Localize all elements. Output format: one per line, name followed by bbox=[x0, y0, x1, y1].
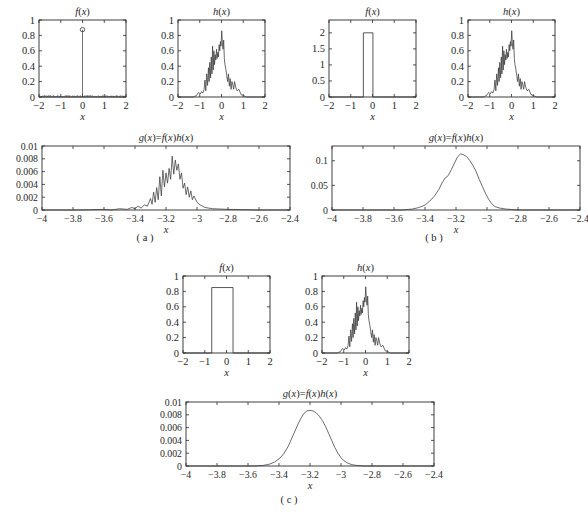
data-curve bbox=[178, 31, 265, 97]
chart-b-g: g(x)=f(x)h(x)−4−3.8−3.6−3.4−3.2−3−2.8−2.… bbox=[296, 130, 588, 236]
x-axis-title: x bbox=[508, 111, 514, 122]
y-tick-label: 0.2 bbox=[22, 76, 35, 87]
y-tick-label: 0.4 bbox=[161, 61, 175, 72]
x-tick-label: −2.8 bbox=[509, 213, 527, 224]
x-tick-label: 0 bbox=[224, 356, 229, 367]
plot-b_f: f(x)−2−101200.511.52x bbox=[296, 4, 422, 123]
x-tick-label: 2 bbox=[413, 100, 418, 111]
panel-a: f(x)−2−101200.20.40.60.81x h(x)−2−101200… bbox=[0, 0, 290, 255]
x-axis-title: x bbox=[369, 111, 375, 122]
y-tick-label: 0.002 bbox=[160, 448, 182, 459]
plot-b_h: h(x)−2−101200.20.40.60.81x bbox=[435, 4, 561, 123]
y-tick-label: 0.4 bbox=[22, 61, 36, 72]
y-tick-label: 0.6 bbox=[22, 45, 35, 56]
x-tick-label: −3.8 bbox=[354, 213, 372, 224]
plot-a_h: h(x)−2−101200.20.40.60.81x bbox=[145, 4, 271, 123]
y-tick-label: 1 bbox=[459, 15, 464, 26]
y-tick-label: 0.6 bbox=[451, 45, 464, 56]
chart-a-g: g(x)=f(x)h(x)−4−3.8−3.6−3.4−3.2−3−2.8−2.… bbox=[6, 130, 298, 236]
plot-frame bbox=[42, 146, 290, 210]
data-curve bbox=[332, 154, 580, 210]
x-tick-label: −2.6 bbox=[540, 213, 558, 224]
x-tick-label: −1 bbox=[484, 100, 495, 111]
panel-b-caption: ( b ) bbox=[290, 232, 578, 243]
y-tick-label: 2 bbox=[320, 27, 325, 38]
y-tick-label: 0 bbox=[313, 348, 318, 359]
data-curve bbox=[468, 31, 555, 97]
x-tick-label: −1 bbox=[345, 100, 356, 111]
plot-frame bbox=[332, 146, 580, 210]
x-tick-label: −2 bbox=[172, 100, 183, 111]
x-tick-label: 2 bbox=[262, 100, 267, 111]
y-tick-label: 1 bbox=[174, 271, 179, 282]
x-tick-label: −2.4 bbox=[425, 469, 443, 480]
plot-title: g(x)=f(x)h(x) bbox=[283, 388, 338, 400]
y-tick-label: 0 bbox=[459, 92, 464, 103]
y-tick-label: 0.8 bbox=[451, 30, 464, 41]
y-tick-label: 0.4 bbox=[451, 61, 465, 72]
y-tick-label: 0.006 bbox=[160, 422, 182, 433]
y-tick-label: 0 bbox=[320, 92, 325, 103]
x-tick-label: −3 bbox=[336, 469, 347, 480]
x-tick-label: 0 bbox=[219, 100, 224, 111]
x-tick-label: −3.4 bbox=[126, 213, 144, 224]
y-tick-label: 0.8 bbox=[166, 286, 179, 297]
chart-a-f: f(x)−2−101200.20.40.60.81x bbox=[6, 4, 132, 123]
x-axis-title: x bbox=[218, 111, 224, 122]
plot-title: g(x)=f(x)h(x) bbox=[429, 132, 484, 144]
x-tick-label: −1 bbox=[55, 100, 66, 111]
x-tick-label: 1 bbox=[102, 100, 107, 111]
x-tick-label: −1 bbox=[194, 100, 205, 111]
y-tick-label: 0.01 bbox=[165, 397, 182, 408]
x-tick-label: −2.6 bbox=[250, 213, 268, 224]
x-axis-title: x bbox=[362, 367, 368, 378]
x-tick-label: −4 bbox=[181, 469, 192, 480]
y-tick-label: 0.008 bbox=[16, 153, 38, 164]
panel-c-caption: ( c ) bbox=[144, 494, 434, 505]
x-tick-label: 1 bbox=[392, 100, 397, 111]
y-tick-label: 0.1 bbox=[316, 155, 328, 166]
x-tick-label: 0 bbox=[363, 356, 368, 367]
x-tick-label: −2.4 bbox=[571, 213, 588, 224]
y-tick-label: 1 bbox=[320, 59, 325, 70]
x-tick-label: 2 bbox=[552, 100, 557, 111]
x-tick-label: −3.8 bbox=[208, 469, 226, 480]
x-axis-title: x bbox=[223, 367, 229, 378]
x-tick-label: −2.8 bbox=[219, 213, 237, 224]
x-tick-label: −4 bbox=[327, 213, 338, 224]
plot-c_h: h(x)−2−101200.20.40.60.81x bbox=[289, 260, 415, 379]
x-axis-title: x bbox=[79, 111, 85, 122]
x-tick-label: −3.6 bbox=[385, 213, 403, 224]
y-tick-label: 0.004 bbox=[160, 435, 182, 446]
x-tick-label: 2 bbox=[406, 356, 411, 367]
x-tick-label: −2 bbox=[462, 100, 473, 111]
plot-title: f(x) bbox=[219, 262, 234, 274]
y-tick-label: 0.2 bbox=[166, 332, 179, 343]
chart-c-f: f(x)−2−101200.20.40.60.81x bbox=[150, 260, 276, 379]
y-tick-label: 0 bbox=[323, 205, 328, 216]
x-tick-label: −3.4 bbox=[270, 469, 288, 480]
plot-title: g(x)=f(x)h(x) bbox=[139, 132, 194, 144]
plot-title: h(x) bbox=[503, 6, 520, 18]
x-tick-label: 1 bbox=[531, 100, 536, 111]
y-tick-label: 0.004 bbox=[16, 179, 38, 190]
chart-b-f: f(x)−2−101200.511.52x bbox=[296, 4, 422, 123]
y-tick-label: 0 bbox=[169, 92, 174, 103]
plot-c_f: f(x)−2−101200.20.40.60.81x bbox=[150, 260, 276, 379]
x-tick-label: −3 bbox=[482, 213, 493, 224]
y-tick-label: 0.2 bbox=[305, 332, 318, 343]
y-tick-label: 0 bbox=[174, 348, 179, 359]
y-tick-label: 0.01 bbox=[21, 141, 38, 152]
y-tick-label: 0.2 bbox=[161, 76, 174, 87]
x-axis-title: x bbox=[307, 480, 313, 491]
x-tick-label: −2 bbox=[177, 356, 188, 367]
y-tick-label: 1 bbox=[313, 271, 318, 282]
chart-b-h: h(x)−2−101200.20.40.60.81x bbox=[435, 4, 561, 123]
plot-b_g: g(x)=f(x)h(x)−4−3.8−3.6−3.4−3.2−3−2.8−2.… bbox=[296, 130, 588, 236]
plot-c_g: g(x)=f(x)h(x)−4−3.8−3.6−3.4−3.2−3−2.8−2.… bbox=[150, 386, 442, 492]
x-tick-label: 1 bbox=[385, 356, 390, 367]
x-tick-label: −3.2 bbox=[447, 213, 465, 224]
rect-pulse bbox=[329, 33, 416, 97]
chart-c-g: g(x)=f(x)h(x)−4−3.8−3.6−3.4−3.2−3−2.8−2.… bbox=[150, 386, 442, 492]
x-tick-label: 2 bbox=[267, 356, 272, 367]
